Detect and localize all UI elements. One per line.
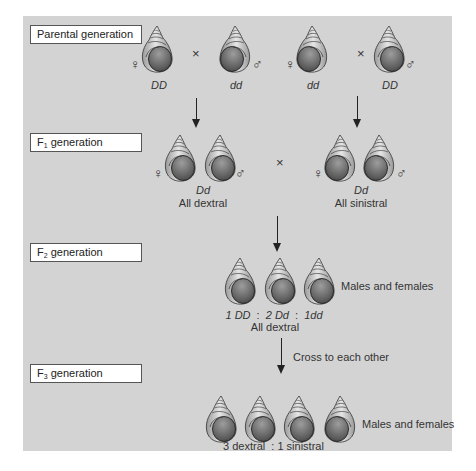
label-suffix: generation: [48, 367, 103, 379]
arrow-down-icon: [277, 338, 286, 374]
snail-f1-male-sinistral: [362, 133, 396, 183]
snail-f1-female-sinistral: [323, 133, 357, 183]
arrow-down-icon: [273, 216, 282, 252]
cross-symbol: ×: [357, 47, 365, 60]
arrow-down-icon: [353, 96, 362, 128]
snail-f3-dextral: [243, 394, 277, 444]
label-prefix: F: [37, 246, 44, 258]
note-f3-sexes: Males and females: [362, 418, 454, 430]
snail-parental-male-DD-dextral: [372, 24, 406, 74]
snail-f2-dextral: [263, 256, 297, 306]
genotype-parental-2: dd: [221, 79, 251, 91]
male-symbol-icon: ♂: [396, 166, 407, 180]
genotype-f1-right: Dd: [341, 184, 381, 196]
ratio-separator: :: [257, 309, 260, 321]
diagram-panel: Parental generation ♀ DD × ♂ dd ♀ dd × ♂…: [23, 16, 452, 451]
snail-f3-dextral: [204, 394, 238, 444]
genotype-f1-left: Dd: [183, 184, 223, 196]
male-symbol-icon: ♂: [252, 57, 263, 71]
ratio-heterozygous: 2 Dd: [266, 309, 289, 321]
ratio-dd-homozygous: 1 DD: [225, 309, 250, 321]
snail-parental-male-dd-sinistral: [218, 24, 252, 74]
snail-f2-dextral: [302, 256, 336, 306]
label-suffix: generation: [48, 246, 103, 258]
cross-symbol: ×: [276, 156, 284, 169]
phenotype-f1-right: All sinistral: [321, 197, 401, 209]
snail-f1-male-dextral: [203, 133, 237, 183]
male-symbol-icon: ♂: [405, 57, 416, 71]
phenotype-f1-left: All dextral: [163, 197, 243, 209]
label-suffix: generation: [48, 136, 103, 148]
ratio-recessive: 1dd: [304, 309, 322, 321]
genotype-parental-1: DD: [144, 79, 174, 91]
arrow-down-icon: [192, 98, 201, 128]
snail-parental-female-dd-dextral: [140, 24, 174, 74]
ratio-separator: :: [295, 309, 298, 321]
label-f3-generation: F3 generation: [30, 364, 142, 383]
label-prefix: F: [37, 136, 44, 148]
ratio-f3-phenotypes: 3 dextral : 1 sinistral: [223, 440, 324, 452]
female-symbol-icon: ♀: [153, 166, 164, 180]
snail-f3-sinistral: [323, 394, 357, 444]
note-f2-sexes: Males and females: [341, 280, 433, 292]
label-f1-generation: F1 generation: [30, 133, 142, 152]
arrow-note-cross: Cross to each other: [293, 351, 389, 363]
genotype-parental-4: DD: [375, 79, 405, 91]
female-symbol-icon: ♀: [313, 166, 324, 180]
label-prefix: F: [37, 367, 44, 379]
snail-f2-dextral: [223, 256, 257, 306]
snail-parental-female-dd-sinistral: [295, 24, 329, 74]
label-f2-generation: F2 generation: [30, 243, 142, 262]
label-parental-generation: Parental generation: [30, 25, 142, 44]
snail-f1-female-dextral: [163, 133, 197, 183]
male-symbol-icon: ♂: [235, 166, 246, 180]
phenotype-f2: All dextral: [237, 321, 313, 333]
label-text: Parental generation: [37, 28, 133, 40]
cross-symbol: ×: [192, 47, 200, 60]
snail-f3-dextral: [282, 394, 316, 444]
female-symbol-icon: ♀: [130, 57, 141, 71]
genotype-parental-3: dd: [298, 79, 328, 91]
female-symbol-icon: ♀: [285, 57, 296, 71]
ratio-f2-genotypes: 1 DD : 2 Dd : 1dd: [209, 309, 339, 321]
